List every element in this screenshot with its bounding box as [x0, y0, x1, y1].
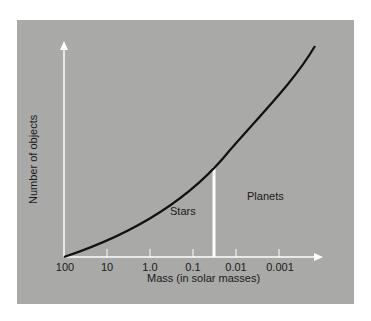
- x-tick-label: 0.001: [266, 261, 294, 273]
- planets-region-label: Planets: [247, 190, 284, 202]
- stars-region-label: Stars: [170, 205, 196, 217]
- x-tick-label: 0.01: [225, 261, 246, 273]
- x-ticks: [107, 249, 279, 257]
- x-tick-label: 10: [101, 261, 113, 273]
- distribution-curve: [64, 46, 315, 257]
- x-tick-label: 0.1: [185, 261, 200, 273]
- y-axis-arrow-icon: [60, 41, 68, 50]
- x-axis-label: Mass (in solar masses): [147, 272, 260, 284]
- x-axis-arrow-icon: [314, 253, 323, 261]
- y-axis-label: Number of objects: [27, 115, 39, 204]
- x-tick-label: 100: [56, 261, 74, 273]
- x-tick-label: 1.0: [142, 261, 157, 273]
